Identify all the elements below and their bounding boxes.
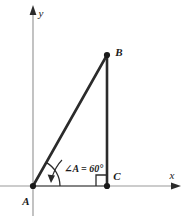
vertex-dot-c [104,183,110,189]
x-axis-arrowhead [171,183,181,190]
vertex-dot-a [30,183,36,189]
angle-pointer-arrowhead [48,175,55,183]
vertex-label-c: C [113,170,121,182]
angle-annotation-label: ∠A = 60° [64,163,103,174]
y-axis-label: y [38,7,44,19]
x-axis-label: x [169,169,175,181]
figure-canvas: y x A B C ∠A = 60° [0,0,187,216]
y-axis-arrowhead [30,5,37,15]
vertex-label-a: A [21,195,29,207]
vertex-dot-b [104,52,110,58]
vertex-label-b: B [114,46,122,58]
geometry-figure: y x A B C ∠A = 60° [0,0,187,216]
